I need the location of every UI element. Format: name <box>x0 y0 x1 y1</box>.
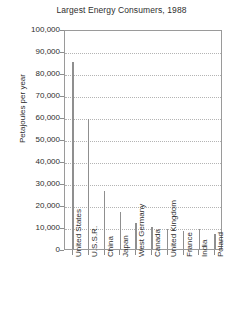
x-axis-tick-mark <box>88 250 89 255</box>
gridline <box>65 97 221 98</box>
x-axis-tick-mark <box>151 250 152 255</box>
y-axis-tick-label: 90,000 <box>36 48 60 56</box>
chart-title: Largest Energy Consumers, 1988 <box>0 5 243 15</box>
y-axis-tick-label: 80,000 <box>36 70 60 78</box>
x-axis-category-label: West Germany <box>138 204 146 257</box>
y-axis-tick-label: 20,000 <box>36 202 60 210</box>
x-axis-tick-mark <box>72 250 73 255</box>
x-axis-category-label: Canada <box>154 229 162 257</box>
chart-figure: Largest Energy Consumers, 1988 Petajoule… <box>0 0 243 327</box>
y-axis-tick-label: 60,000 <box>36 114 60 122</box>
x-axis-category-label: United Kingdom <box>170 200 178 257</box>
x-axis-tick-mark <box>167 250 168 255</box>
gridline <box>65 75 221 76</box>
x-axis-category-label: France <box>186 232 194 257</box>
y-axis-tick-label: 50,000 <box>36 136 60 144</box>
x-axis-category-label: United States <box>75 209 83 257</box>
x-axis-tick-mark <box>183 250 184 255</box>
x-axis-category-label: Poland <box>217 232 225 257</box>
x-axis-category-label: India <box>201 240 209 257</box>
y-axis-tick-label: 100,000 <box>31 26 60 34</box>
x-axis-category-label: China <box>107 236 115 257</box>
y-axis-tick-label: 70,000 <box>36 92 60 100</box>
y-axis-tick-label: 30,000 <box>36 180 60 188</box>
x-axis-tick-mark <box>104 250 105 255</box>
y-axis-tick-label: 10,000 <box>36 224 60 232</box>
x-axis-tick-mark <box>135 250 136 255</box>
y-axis-label: Petajoules per year <box>18 54 27 164</box>
x-axis-tick-mark <box>214 250 215 255</box>
gridline <box>65 53 221 54</box>
x-axis-category-label: U.S.S.R. <box>91 226 99 257</box>
y-axis-tick-label: 40,000 <box>36 158 60 166</box>
y-axis-tick-mark <box>60 250 64 251</box>
x-axis-category-label: Japan <box>122 235 130 257</box>
